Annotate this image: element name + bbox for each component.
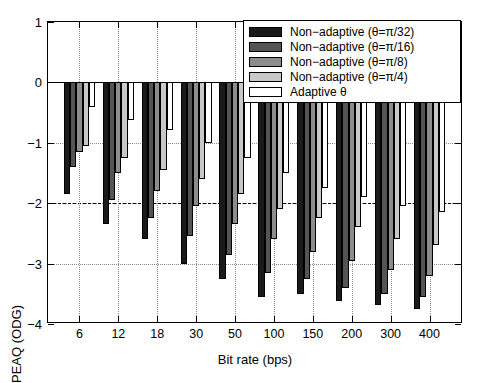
x-tick-label-12: 12 xyxy=(111,327,125,341)
legend-label: Non−adaptive (θ=π/16) xyxy=(290,41,414,53)
y-tick--1 xyxy=(48,143,54,144)
bar-group-12 xyxy=(103,22,134,322)
x-tick-label-6: 6 xyxy=(76,327,83,341)
x-tick-label-200: 200 xyxy=(341,327,362,341)
legend-label: Non−adaptive (θ=π/4) xyxy=(290,71,408,83)
legend-item[interactable]: Non−adaptive (θ=π/32) xyxy=(249,24,455,39)
y-tick-label--4: −4 xyxy=(27,317,42,332)
x-tick-label-18: 18 xyxy=(150,327,164,341)
y-tick--3 xyxy=(48,264,54,265)
x-tick-label-400: 400 xyxy=(419,327,440,341)
bar xyxy=(167,82,173,129)
legend-swatch xyxy=(249,57,282,67)
y-axis-title: PEAQ (ODG) xyxy=(9,305,24,383)
y-tick-label--1: −1 xyxy=(27,135,42,150)
x-tick-label-50: 50 xyxy=(228,327,242,341)
legend-item[interactable]: Non−adaptive (θ=π/16) xyxy=(249,39,455,54)
y-tick-1 xyxy=(48,22,54,23)
bar xyxy=(205,82,211,142)
y-tick-label-0: 0 xyxy=(35,75,42,90)
x-tick-label-300: 300 xyxy=(380,327,401,341)
y-tick--4 xyxy=(48,324,54,325)
x-axis-title: Bit rate (bps) xyxy=(218,352,292,367)
legend-label: Adaptive θ xyxy=(290,86,347,98)
bar-group-6 xyxy=(64,22,95,322)
y-tick--2 xyxy=(48,203,54,204)
x-tick-label-100: 100 xyxy=(264,327,285,341)
y-tick-right--3 xyxy=(455,264,461,265)
y-tick-label-1: 1 xyxy=(35,15,42,30)
y-tick-right--2 xyxy=(455,203,461,204)
bar xyxy=(128,82,134,119)
y-tick-label--3: −3 xyxy=(27,256,42,271)
legend-swatch xyxy=(249,27,282,37)
legend-item[interactable]: Non−adaptive (θ=π/4) xyxy=(249,69,455,84)
y-tick-right--4 xyxy=(455,324,461,325)
y-tick-label--2: −2 xyxy=(27,196,42,211)
legend-label: Non−adaptive (θ=π/32) xyxy=(290,26,414,38)
legend-item[interactable]: Non−adaptive (θ=π/8) xyxy=(249,54,455,69)
y-tick-0 xyxy=(48,82,54,83)
legend-item[interactable]: Adaptive θ xyxy=(249,84,455,99)
chart-legend: Non−adaptive (θ=π/32)Non−adaptive (θ=π/1… xyxy=(243,20,461,103)
legend-swatch xyxy=(249,72,282,82)
y-tick-right--1 xyxy=(455,143,461,144)
bar-group-30 xyxy=(181,22,212,322)
x-tick-label-150: 150 xyxy=(302,327,323,341)
legend-swatch xyxy=(249,42,282,52)
bar xyxy=(89,82,95,106)
x-tick-label-30: 30 xyxy=(189,327,203,341)
bar-group-18 xyxy=(142,22,173,322)
legend-label: Non−adaptive (θ=π/8) xyxy=(290,56,408,68)
legend-swatch xyxy=(249,87,282,97)
